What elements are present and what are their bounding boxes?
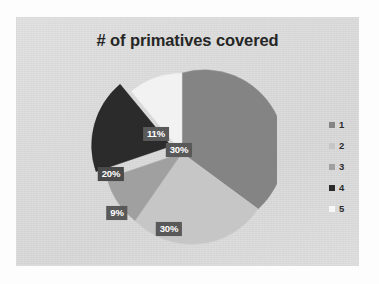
legend-swatch-icon-2	[329, 143, 335, 149]
legend-item-1[interactable]: 1	[306, 114, 346, 135]
legend: 1 2 3 4 5	[306, 114, 346, 219]
slice-label-2: 30%	[156, 222, 182, 236]
chart-panel: # of primatives covered 30% 30% 9% 20% 1…	[17, 18, 358, 265]
legend-swatch-icon-4	[329, 185, 335, 191]
slice-label-5: 11%	[143, 127, 169, 141]
slice-label-4: 20%	[98, 167, 124, 181]
legend-item-5[interactable]: 5	[306, 198, 346, 219]
page-background: # of primatives covered 30% 30% 9% 20% 1…	[0, 0, 379, 284]
legend-swatch-icon-3	[329, 164, 335, 170]
legend-label-3: 3	[339, 161, 346, 172]
legend-label-5: 5	[339, 203, 346, 214]
legend-item-3[interactable]: 3	[306, 156, 346, 177]
legend-label-1: 1	[339, 119, 346, 130]
legend-label-4: 4	[339, 182, 346, 193]
legend-swatch-icon-5	[329, 206, 335, 212]
legend-label-2: 2	[339, 140, 346, 151]
slice-label-1: 30%	[166, 143, 192, 157]
slice-label-3: 9%	[106, 206, 127, 220]
legend-item-2[interactable]: 2	[306, 135, 346, 156]
legend-item-4[interactable]: 4	[306, 177, 346, 198]
legend-swatch-icon-1	[329, 122, 335, 128]
